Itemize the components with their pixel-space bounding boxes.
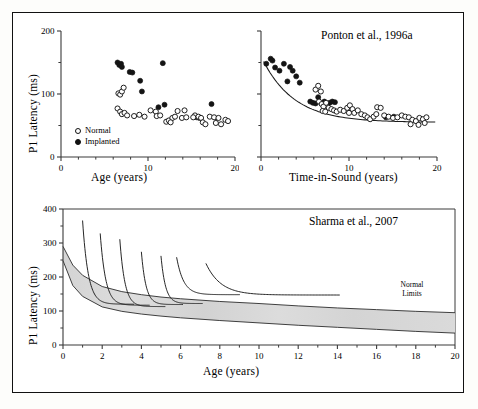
x-tick-label: 4	[139, 351, 144, 361]
data-point-normal	[137, 112, 142, 117]
legend-item-normal: Normal	[75, 125, 119, 136]
legend-label-normal: Normal	[85, 125, 111, 136]
y-tick-label: 0	[52, 340, 57, 350]
legend-item-implanted: Implanted	[75, 136, 119, 147]
data-point-implanted	[162, 102, 167, 107]
data-point-normal	[172, 114, 177, 119]
data-point-normal	[374, 112, 379, 117]
x-tick-label: 0	[259, 163, 264, 173]
data-point-implanted	[130, 70, 135, 75]
data-point-implanted	[290, 68, 295, 73]
x-tick-label: 0	[61, 351, 66, 361]
y-tick-label: 300	[43, 238, 57, 248]
data-point-normal	[422, 120, 427, 125]
y-tick-label: 100	[41, 89, 55, 99]
panel-top-right-xlabel: Time-in-Sound (years)	[289, 171, 398, 183]
x-tick-label: 8	[218, 351, 223, 361]
y-tick-label: 100	[43, 306, 57, 316]
data-point-normal	[346, 110, 351, 115]
data-point-implanted	[160, 61, 165, 66]
panel-top-left-xlabel: Age (years)	[91, 171, 147, 183]
x-tick-label: 10	[255, 351, 265, 361]
panel-top-right-citation: Ponton et al., 1996a	[321, 29, 413, 41]
y-tick-label: 200	[43, 272, 57, 282]
figure-frame: 010020001020 P1 Latency (ms) Age (years)…	[12, 12, 464, 393]
panel-bottom: 010020030040002468101214161820 P1 Latenc…	[13, 193, 465, 391]
x-tick-label: 20	[433, 163, 443, 173]
data-point-normal	[378, 105, 383, 110]
data-point-normal	[324, 100, 329, 105]
data-point-implanted	[119, 64, 124, 69]
panel-bottom-xlabel: Age (years)	[203, 365, 259, 377]
filled-circle-icon	[75, 139, 81, 145]
data-point-normal	[175, 108, 180, 113]
y-tick-label: 0	[50, 152, 55, 162]
x-tick-label: 0	[59, 163, 64, 173]
x-tick-label: 20	[451, 351, 461, 361]
normal-limits-annotation: Normal Limits	[384, 280, 440, 298]
data-point-implanted	[139, 89, 144, 94]
data-point-normal	[203, 122, 208, 127]
data-point-implanted	[294, 74, 299, 79]
data-point-normal	[132, 114, 137, 119]
implant-age-7	[206, 264, 339, 295]
data-point-normal	[191, 115, 196, 120]
y-tick-label: 400	[43, 204, 57, 214]
normal-limits-line1: Normal	[384, 280, 440, 289]
figure-root: 010020001020 P1 Latency (ms) Age (years)…	[0, 0, 478, 409]
data-point-implanted	[138, 78, 143, 83]
data-point-normal	[182, 108, 187, 113]
data-point-normal	[184, 115, 189, 120]
x-tick-label: 14	[333, 351, 343, 361]
series-implanted	[115, 60, 214, 120]
data-point-implanted	[281, 61, 286, 66]
data-point-normal	[125, 113, 130, 118]
data-point-normal	[408, 122, 413, 127]
panel-bottom-citation: Sharma et al., 2007	[309, 215, 398, 227]
x-tick-label: 16	[372, 351, 382, 361]
x-tick-label: 2	[100, 351, 105, 361]
x-tick-label: 18	[411, 351, 421, 361]
data-point-implanted	[332, 100, 337, 105]
legend-label-implanted: Implanted	[85, 136, 119, 147]
panel-bottom-ylabel: P1 Latency (ms)	[27, 266, 39, 345]
series-normal	[313, 83, 429, 127]
data-point-normal	[219, 122, 224, 127]
data-point-normal	[213, 120, 218, 125]
normal-limits-line2: Limits	[384, 289, 440, 298]
data-point-normal	[158, 113, 163, 118]
data-point-normal	[416, 122, 421, 127]
data-point-implanted	[277, 68, 282, 73]
data-point-normal	[142, 114, 147, 119]
panel-top-right: 01020 Ponton et al., 1996a Time-in-Sound…	[239, 13, 465, 193]
open-circle-icon	[75, 128, 81, 134]
x-tick-label: 20	[231, 163, 240, 173]
data-point-normal	[316, 83, 321, 88]
data-point-implanted	[273, 65, 278, 70]
y-tick-label: 200	[41, 26, 55, 36]
data-point-normal	[168, 120, 173, 125]
x-tick-label: 12	[294, 351, 303, 361]
data-point-normal	[216, 115, 221, 120]
data-point-implanted	[209, 102, 214, 107]
implant-age-5	[161, 256, 202, 303]
panel-top-left: 010020001020 P1 Latency (ms) Age (years)…	[13, 13, 239, 193]
data-point-implanted	[270, 58, 275, 63]
data-point-implanted	[297, 80, 302, 85]
data-point-normal	[121, 85, 126, 90]
panel-top-left-ylabel: P1 Latency (ms)	[27, 74, 39, 153]
x-tick-label: 6	[178, 351, 183, 361]
data-point-implanted	[285, 79, 290, 84]
panel-top-left-plot: 010020001020	[13, 13, 239, 193]
data-point-normal	[424, 115, 429, 120]
data-point-implanted	[264, 61, 269, 66]
data-point-normal	[148, 108, 153, 113]
legend: Normal Implanted	[75, 125, 119, 147]
data-point-normal	[225, 119, 230, 124]
data-point-normal	[318, 89, 323, 94]
